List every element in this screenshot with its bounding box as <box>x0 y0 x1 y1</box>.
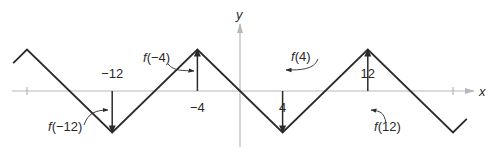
value-annotation: f(−4) <box>143 50 197 91</box>
function-value-label: f(−4) <box>143 50 170 65</box>
function-value-label: f(−12) <box>48 119 82 134</box>
value-annotation: f(−12) <box>48 91 112 134</box>
x-axis-label: x <box>478 84 486 99</box>
value-annotation: f(12) <box>368 50 401 134</box>
y-axis-label: y <box>235 7 244 22</box>
function-value-label: f(4) <box>291 49 311 64</box>
x-tick-label: −12 <box>101 66 123 81</box>
function-graph: x y −12−4412 f(−12)f(−4)f(4)f(12) <box>0 0 499 153</box>
x-tick-label: −4 <box>190 100 205 115</box>
function-value-label: f(12) <box>374 119 401 134</box>
